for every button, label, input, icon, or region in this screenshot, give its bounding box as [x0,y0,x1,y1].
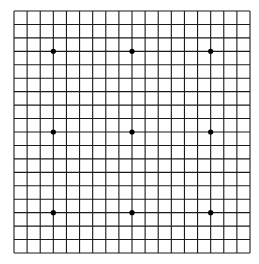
board-intersection[interactable] [165,179,178,192]
board-intersection[interactable] [230,85,243,98]
board-intersection[interactable] [178,219,191,232]
board-intersection[interactable] [178,152,191,165]
board-intersection[interactable] [86,58,99,71]
board-intersection[interactable] [230,166,243,179]
board-intersection[interactable] [165,4,178,17]
board-intersection[interactable] [217,31,230,44]
board-intersection[interactable] [86,233,99,246]
board-intersection[interactable] [60,152,73,165]
board-intersection[interactable] [21,31,34,44]
board-intersection[interactable] [7,179,20,192]
board-intersection[interactable] [139,72,152,85]
board-intersection[interactable] [21,152,34,165]
board-intersection[interactable] [139,45,152,58]
board-intersection[interactable] [21,112,34,125]
board-intersection[interactable] [165,112,178,125]
board-intersection[interactable] [7,125,20,138]
board-intersection[interactable] [152,125,165,138]
board-intersection[interactable] [204,72,217,85]
board-intersection[interactable] [152,58,165,71]
board-intersection[interactable] [73,31,86,44]
board-intersection[interactable] [73,139,86,152]
board-intersection[interactable] [191,193,204,206]
board-intersection[interactable] [21,139,34,152]
board-intersection[interactable] [60,219,73,232]
board-intersection[interactable] [178,139,191,152]
board-intersection[interactable] [139,193,152,206]
board-intersection[interactable] [73,85,86,98]
board-intersection[interactable] [125,139,138,152]
board-intersection[interactable] [73,179,86,192]
board-intersection[interactable] [112,246,125,259]
board-intersection[interactable] [112,45,125,58]
board-intersection[interactable] [230,125,243,138]
board-intersection[interactable] [178,4,191,17]
board-intersection[interactable] [34,4,47,17]
board-intersection[interactable] [152,233,165,246]
board-intersection[interactable] [204,98,217,111]
board-intersection[interactable] [204,152,217,165]
board-intersection[interactable] [60,58,73,71]
board-intersection[interactable] [99,112,112,125]
board-intersection[interactable] [60,98,73,111]
board-intersection[interactable] [99,31,112,44]
board-intersection[interactable] [86,72,99,85]
board-intersection[interactable] [60,166,73,179]
board-intersection[interactable] [7,166,20,179]
board-intersection[interactable] [217,193,230,206]
board-intersection[interactable] [60,193,73,206]
board-intersection[interactable] [165,206,178,219]
board-intersection[interactable] [165,18,178,31]
board-intersection[interactable] [34,85,47,98]
board-intersection[interactable] [47,98,60,111]
board-intersection[interactable] [178,85,191,98]
board-intersection[interactable] [47,166,60,179]
board-intersection[interactable] [178,72,191,85]
board-intersection[interactable] [178,45,191,58]
board-intersection[interactable] [47,152,60,165]
board-intersection[interactable] [230,246,243,259]
board-intersection[interactable] [34,139,47,152]
board-intersection[interactable] [152,112,165,125]
board-intersection[interactable] [73,112,86,125]
board-intersection[interactable] [47,45,60,58]
board-intersection[interactable] [99,125,112,138]
board-intersection[interactable] [165,219,178,232]
board-intersection[interactable] [191,233,204,246]
board-intersection[interactable] [99,166,112,179]
board-intersection[interactable] [217,18,230,31]
board-intersection[interactable] [112,206,125,219]
board-intersection[interactable] [165,98,178,111]
board-intersection[interactable] [34,125,47,138]
board-intersection[interactable] [217,112,230,125]
intersections[interactable] [7,4,256,259]
board-intersection[interactable] [99,179,112,192]
board-intersection[interactable] [217,179,230,192]
board-intersection[interactable] [139,179,152,192]
board-intersection[interactable] [47,85,60,98]
board-intersection[interactable] [204,179,217,192]
board-intersection[interactable] [112,179,125,192]
board-intersection[interactable] [60,45,73,58]
board-intersection[interactable] [243,152,256,165]
board-intersection[interactable] [86,246,99,259]
board-intersection[interactable] [139,98,152,111]
board-intersection[interactable] [60,179,73,192]
board-intersection[interactable] [21,4,34,17]
board-intersection[interactable] [47,139,60,152]
board-intersection[interactable] [230,58,243,71]
board-intersection[interactable] [230,31,243,44]
board-intersection[interactable] [47,246,60,259]
board-intersection[interactable] [21,179,34,192]
board-intersection[interactable] [230,206,243,219]
board-intersection[interactable] [99,246,112,259]
board-intersection[interactable] [204,18,217,31]
board-intersection[interactable] [73,18,86,31]
board-intersection[interactable] [73,152,86,165]
board-intersection[interactable] [230,193,243,206]
board-intersection[interactable] [112,31,125,44]
board-intersection[interactable] [112,152,125,165]
board-intersection[interactable] [204,219,217,232]
board-intersection[interactable] [243,98,256,111]
board-intersection[interactable] [7,4,20,17]
